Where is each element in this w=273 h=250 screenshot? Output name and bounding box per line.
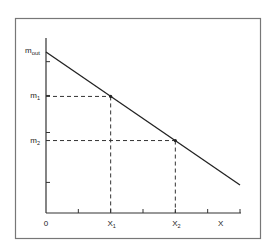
- series-line: [46, 52, 240, 185]
- x-label-origin: 0: [44, 219, 49, 228]
- x-label-x2: X2: [172, 219, 180, 229]
- y-label-mout: mout: [25, 46, 40, 56]
- y-label-m1: m1: [30, 91, 40, 101]
- y-label-m2: m2: [30, 136, 40, 146]
- point-1-marker: [109, 95, 112, 98]
- diagram-canvas: mout m1 m2 0 X1 X2 X: [0, 0, 273, 250]
- x-axis-title: X: [218, 219, 224, 228]
- outer-frame: [16, 19, 261, 239]
- point-2-marker: [174, 139, 177, 142]
- x-label-x1: X1: [107, 219, 115, 229]
